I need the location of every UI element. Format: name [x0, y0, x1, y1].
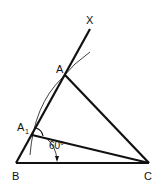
arrow-head-icon — [55, 156, 59, 162]
geometry-diagram: X A A 1 B C 60° — [0, 0, 166, 192]
label-x: X — [86, 14, 94, 26]
label-b: B — [12, 170, 19, 182]
label-a1-subscript: 1 — [25, 128, 29, 135]
angle-label: 60° — [49, 140, 64, 151]
segment-ac — [65, 75, 149, 163]
label-c: C — [144, 170, 152, 182]
angle-mark-a1 — [36, 128, 43, 136]
label-a: A — [56, 63, 64, 75]
label-a1: A — [17, 121, 25, 133]
